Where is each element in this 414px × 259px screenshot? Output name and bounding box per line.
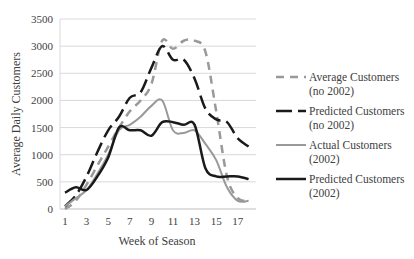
legend-label: Predicted Customers (309, 104, 405, 118)
y-tick-label: 2000 (31, 94, 54, 106)
x-tick-label: 5 (105, 215, 111, 227)
y-tick-label: 500 (37, 176, 54, 188)
legend: Average Customers (no 2002) Predicted Cu… (276, 70, 414, 206)
x-tick-label: 1 (62, 215, 68, 227)
actual-2002-line (65, 99, 249, 206)
y-tick-label: 3500 (31, 13, 54, 25)
legend-item-actual-2002: Actual Customers (2002) (276, 138, 414, 166)
x-axis-ticks: 1357911131517 (62, 215, 244, 227)
legend-sublabel: (2002) (309, 152, 392, 166)
y-tick-label: 0 (48, 203, 54, 215)
solid-black-line-icon (276, 172, 306, 186)
legend-sublabel: (2002) (309, 186, 405, 200)
x-tick-label: 15 (211, 215, 223, 227)
legend-item-predicted-no-2002: Predicted Customers (no 2002) (276, 104, 414, 132)
x-tick-label: 11 (168, 215, 179, 227)
x-tick-label: 7 (127, 215, 133, 227)
y-tick-label: 3000 (31, 40, 54, 52)
x-tick-label: 9 (149, 215, 155, 227)
x-axis-title: Week of Season (118, 234, 195, 248)
series-lines (65, 39, 249, 209)
y-tick-label: 2500 (31, 67, 54, 79)
gridlines (60, 19, 256, 209)
legend-item-predicted-2002: Predicted Customers (2002) (276, 172, 414, 200)
x-tick-label: 17 (232, 215, 244, 227)
legend-sublabel: (no 2002) (309, 84, 399, 98)
solid-gray-line-icon (276, 138, 306, 152)
x-tick-label: 13 (189, 215, 201, 227)
x-tick-label: 3 (84, 215, 90, 227)
legend-label: Average Customers (309, 70, 399, 84)
legend-label: Actual Customers (309, 138, 392, 152)
y-axis-ticks: 0500100015002000250030003500 (31, 13, 54, 215)
long-dash-black-line-icon (276, 104, 306, 118)
y-tick-label: 1000 (31, 149, 54, 161)
y-axis-title: Average Daily Customers (9, 52, 23, 176)
legend-label: Predicted Customers (309, 172, 405, 186)
legend-item-average-no-2002: Average Customers (no 2002) (276, 70, 414, 98)
dashed-gray-line-icon (276, 70, 306, 84)
legend-sublabel: (no 2002) (309, 118, 405, 132)
y-tick-label: 1500 (31, 122, 54, 134)
